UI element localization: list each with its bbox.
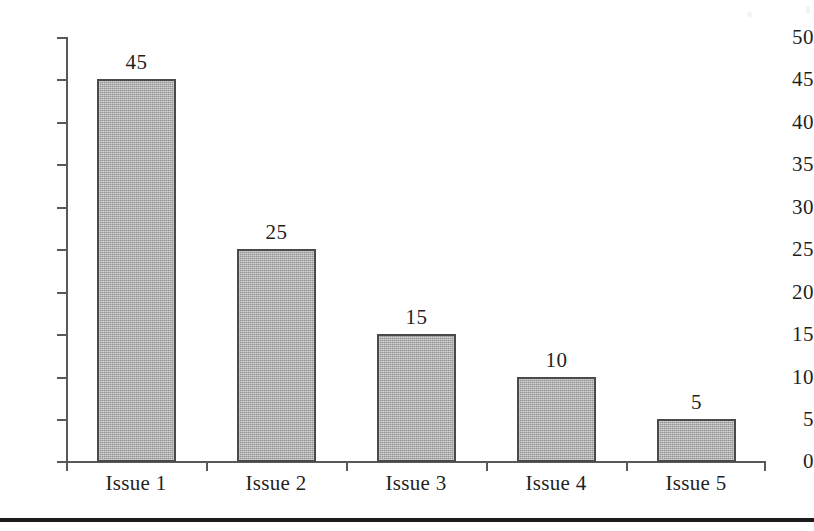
y-tick-5 xyxy=(57,419,66,421)
x-category-label-issue-2: Issue 2 xyxy=(206,472,346,494)
bar-value-issue-5: 5 xyxy=(657,392,736,413)
y-tick-10 xyxy=(57,377,66,379)
bar-value-issue-2: 25 xyxy=(237,222,316,243)
y-tick-label-20: 20 xyxy=(770,282,814,303)
x-tick-boundary-0 xyxy=(66,461,68,471)
y-tick-label-45: 45 xyxy=(770,69,814,90)
y-tick-50 xyxy=(57,37,66,39)
y-tick-label-30: 30 xyxy=(770,197,814,218)
x-tick-boundary-5 xyxy=(764,461,766,471)
bar-chart-plot: 50 45 40 35 30 25 20 15 10 5 0 45 25 xyxy=(0,0,814,531)
y-tick-label-5: 5 xyxy=(770,409,814,430)
y-tick-30 xyxy=(57,207,66,209)
x-tick-boundary-3 xyxy=(486,461,488,471)
y-tick-20 xyxy=(57,292,66,294)
scan-speckle xyxy=(806,6,810,14)
bar-issue-4 xyxy=(517,377,596,462)
x-tick-boundary-2 xyxy=(346,461,348,471)
bar-value-issue-3: 15 xyxy=(377,307,456,328)
bar-value-issue-4: 10 xyxy=(517,350,596,371)
y-tick-25 xyxy=(57,249,66,251)
x-tick-boundary-1 xyxy=(206,461,208,471)
scan-speckle xyxy=(747,12,752,17)
bar-issue-5 xyxy=(657,419,736,462)
bottom-horizontal-rule xyxy=(0,518,814,522)
x-category-label-issue-1: Issue 1 xyxy=(66,472,206,494)
y-tick-label-40: 40 xyxy=(770,112,814,133)
y-tick-label-10: 10 xyxy=(770,367,814,388)
x-category-label-issue-4: Issue 4 xyxy=(486,472,626,494)
bar-issue-1 xyxy=(97,79,176,462)
y-tick-45 xyxy=(57,79,66,81)
y-tick-label-15: 15 xyxy=(770,324,814,345)
bar-value-issue-1: 45 xyxy=(97,52,176,73)
y-tick-label-25: 25 xyxy=(770,239,814,260)
y-axis-line xyxy=(66,37,68,463)
y-tick-15 xyxy=(57,334,66,336)
bar-issue-2 xyxy=(237,249,316,462)
y-tick-0 xyxy=(57,461,66,463)
y-tick-label-35: 35 xyxy=(770,154,814,175)
x-category-label-issue-3: Issue 3 xyxy=(346,472,486,494)
chart-page: 50 45 40 35 30 25 20 15 10 5 0 45 25 xyxy=(0,0,814,531)
y-tick-label-0: 0 xyxy=(770,451,814,472)
x-category-label-issue-5: Issue 5 xyxy=(626,472,766,494)
x-tick-boundary-4 xyxy=(626,461,628,471)
y-tick-40 xyxy=(57,122,66,124)
bar-issue-3 xyxy=(377,334,456,462)
y-tick-label-50: 50 xyxy=(770,27,814,48)
y-tick-35 xyxy=(57,164,66,166)
